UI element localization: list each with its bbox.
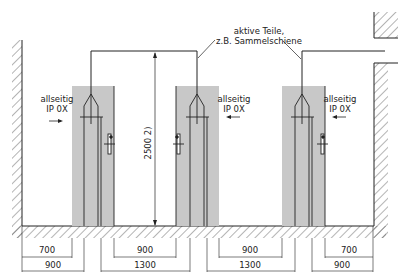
busbar	[91, 51, 385, 94]
technical-drawing: aktive Teile, z.B. Sammelschiene allseit…	[0, 0, 406, 278]
svg-text:allseitig: allseitig	[323, 94, 356, 104]
zone-2	[176, 86, 219, 226]
dim-row1-2: 900	[137, 245, 153, 255]
dim-row2-1: 900	[45, 260, 61, 270]
arrow-left-icon	[332, 115, 346, 119]
svg-text:IP 0X: IP 0X	[329, 104, 351, 114]
dim-row2-2: 1300	[134, 260, 156, 270]
zone-1	[72, 86, 114, 226]
protection-label-2: allseitig IP 0X	[217, 94, 250, 119]
dim-row2-4: 900	[334, 260, 350, 270]
callout-active-parts: aktive Teile, z.B. Sammelschiene	[198, 26, 302, 59]
protection-label-1: allseitig IP 0X	[40, 94, 73, 123]
dim-row2-3: 1300	[239, 260, 261, 270]
svg-text:allseitig: allseitig	[217, 94, 250, 104]
floor	[12, 226, 386, 238]
callout-line-1: aktive Teile,	[234, 26, 284, 36]
callout-line-2: z.B. Sammelschiene	[216, 36, 302, 46]
svg-text:IP 0X: IP 0X	[46, 104, 68, 114]
zone-3	[282, 86, 325, 226]
dim-row1-4: 700	[341, 245, 357, 255]
svg-text:allseitig: allseitig	[40, 94, 73, 104]
left-wall	[12, 40, 22, 238]
height-dimension-label: 2500 2)	[143, 126, 153, 159]
protection-label-3: allseitig IP 0X	[323, 94, 356, 119]
height-dimension: 2500 2)	[143, 52, 157, 226]
arrow-right-icon	[49, 119, 63, 123]
dim-row1-1: 700	[39, 245, 55, 255]
right-wall-upper	[374, 12, 398, 38]
right-wall-lower	[374, 63, 398, 238]
dim-row1-3: 900	[242, 245, 258, 255]
arrow-left-icon	[226, 115, 240, 119]
protected-zones	[72, 86, 325, 226]
svg-text:IP 0X: IP 0X	[223, 104, 245, 114]
